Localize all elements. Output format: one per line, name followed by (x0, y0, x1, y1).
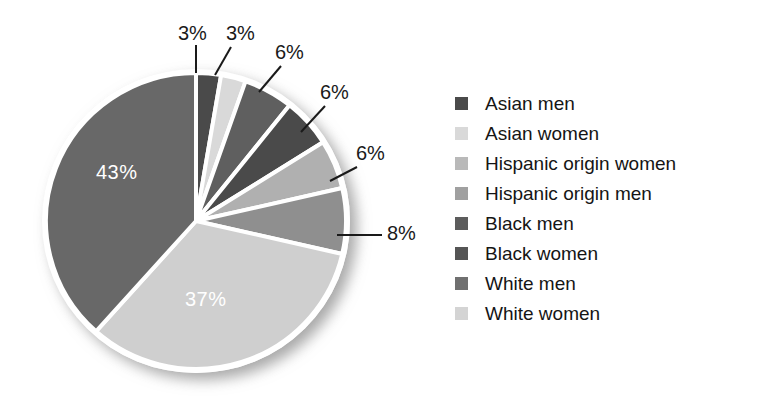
pie-chart-plot-area: 43% 37% 3% 3% 6% 6% 6% 8% (0, 0, 440, 403)
pie-chart-svg (0, 0, 440, 403)
legend-label: White women (485, 304, 600, 323)
legend-label: Black women (485, 244, 598, 263)
legend-swatch-icon (455, 157, 468, 170)
callout-label-3: 6% (275, 41, 304, 64)
leader-line-2 (215, 47, 231, 75)
legend-label: Hispanic origin men (485, 184, 652, 203)
legend-swatch-icon (455, 97, 468, 110)
callout-label-6: 8% (387, 222, 416, 245)
legend-swatch-icon (455, 187, 468, 200)
slice-label-43: 43% (96, 161, 138, 184)
legend-label: Black men (485, 214, 574, 233)
callout-label-5: 6% (356, 142, 385, 165)
legend-label: Asian men (485, 94, 575, 113)
pie-chart-figure: 43% 37% 3% 3% 6% 6% 6% 8% Asian men Asia… (0, 0, 770, 403)
legend-swatch-icon (455, 217, 468, 230)
legend-swatch-icon (455, 277, 468, 290)
legend-item-black-women[interactable]: Black women (455, 238, 755, 268)
legend-item-hispanic-origin-men[interactable]: Hispanic origin men (455, 178, 755, 208)
callout-label-1: 3% (178, 22, 207, 45)
slice-label-37: 37% (185, 288, 227, 311)
legend-label: Hispanic origin women (485, 154, 676, 173)
legend-item-black-men[interactable]: Black men (455, 208, 755, 238)
legend-swatch-icon (455, 127, 468, 140)
legend-item-hispanic-origin-women[interactable]: Hispanic origin women (455, 148, 755, 178)
legend-item-white-men[interactable]: White men (455, 268, 755, 298)
legend-label: White men (485, 274, 576, 293)
legend-label: Asian women (485, 124, 599, 143)
legend-item-asian-women[interactable]: Asian women (455, 118, 755, 148)
chart-legend: Asian men Asian women Hispanic origin wo… (455, 88, 755, 328)
callout-label-4: 6% (320, 81, 349, 104)
legend-item-white-women[interactable]: White women (455, 298, 755, 328)
callout-label-2: 3% (226, 22, 255, 45)
pie-slices (46, 73, 346, 369)
legend-swatch-icon (455, 307, 468, 320)
legend-item-asian-men[interactable]: Asian men (455, 88, 755, 118)
legend-swatch-icon (455, 247, 468, 260)
